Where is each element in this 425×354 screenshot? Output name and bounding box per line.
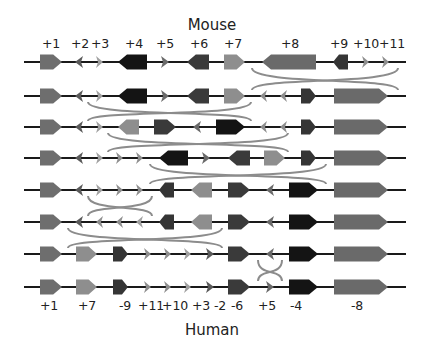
inversion-arc-7 [258,260,282,281]
gene-4-icon [118,89,147,104]
inversion-arc-3 [108,133,288,152]
gene-1-icon [40,55,62,70]
gene-4-icon [118,55,147,70]
chromosome-row-1 [24,55,406,70]
gene-4-icon [289,215,318,230]
gene-9-icon [113,280,128,295]
gene-1-icon [40,120,62,135]
mouse-title: Mouse [188,16,237,34]
human-gene-label: +1 [40,298,58,313]
mouse-gene-label: +2 [71,36,89,51]
mouse-gene-label: +5 [156,36,174,51]
gene-6-icon [154,120,176,135]
mouse-gene-label: +4 [125,36,143,51]
inversion-arc-2 [88,102,251,121]
gene-8-icon [334,215,388,230]
gene-7-icon [118,120,139,135]
chromosome-row-5 [24,183,406,198]
gene-7-icon [191,183,212,198]
chromosome-row-6 [24,215,406,230]
gene-6-icon [228,151,250,166]
inversion-arc-2 [88,102,251,121]
gene-9-icon [113,247,128,262]
chromosome-row-2 [24,89,406,104]
gene-6-icon [228,280,250,295]
gene-9-icon [301,89,316,104]
gene-4-icon [289,247,318,262]
gene-6-icon [228,183,250,198]
mouse-gene-label: +7 [224,36,242,51]
inversion-arc-3 [108,133,288,152]
gene-8-icon [334,89,388,104]
gene-8-icon [334,280,388,295]
gene-1-icon [40,215,62,230]
mouse-gene-label: +10 [353,36,379,51]
gene-8-icon [334,120,388,135]
gene-1-icon [40,183,62,198]
human-gene-label: -8 [351,298,363,313]
gene-1-icon [40,89,62,104]
inversion-arc-1 [252,68,398,90]
inversion-arc-1 [252,68,398,90]
gene-7-icon [76,280,97,295]
gene-1-icon [40,151,62,166]
human-title: Human [185,321,239,339]
inversion-arc-4 [150,164,326,184]
chromosome-row-3 [24,120,406,135]
gene-9-icon [159,183,174,198]
human-gene-label: -4 [290,298,302,313]
inversion-arc-6 [68,228,222,248]
gene-8-icon [334,183,388,198]
gene-8-icon [334,151,388,166]
gene-6-icon [187,89,209,104]
gene-6-icon [228,247,250,262]
gene-8-icon [334,247,388,262]
gene-4-icon [159,151,188,166]
chromosome-row-7 [24,247,406,262]
gene-7-icon [224,55,245,70]
human-gene-label: +10 [162,298,188,313]
gene-7-icon [191,215,212,230]
gene-1-icon [40,247,62,262]
human-gene-label: +5 [258,298,276,313]
inversion-arc-7 [258,260,282,281]
mouse-gene-label: +1 [42,36,60,51]
gene-8-icon [262,55,316,70]
human-gene-label: -2 [214,298,226,313]
gene-7-icon [76,247,97,262]
chromosome-row-8 [24,280,406,295]
gene-4-icon [216,120,245,135]
gene-9-icon [301,151,316,166]
inversion-arc-5 [88,196,152,216]
human-gene-label: -6 [231,298,243,313]
human-gene-label: +11 [138,298,164,313]
gene-4-icon [289,280,318,295]
inversion-arc-5 [88,196,152,216]
gene-7-icon [264,151,285,166]
gene-7-icon [224,89,245,104]
inversion-arc-6 [68,228,222,248]
human-gene-label: +7 [78,298,96,313]
human-gene-label: -9 [119,298,131,313]
chromosome-row-4 [24,151,406,166]
mouse-gene-label: +9 [330,36,348,51]
mouse-gene-label: +3 [91,36,109,51]
human-gene-label: +3 [192,298,210,313]
gene-4-icon [289,183,318,198]
gene-6-icon [228,215,250,230]
inversion-arc-4 [150,164,326,184]
gene-9-icon [333,55,348,70]
mouse-gene-label: +8 [281,36,299,51]
gene-1-icon [40,280,62,295]
gene-9-icon [301,120,316,135]
gene-9-icon [159,215,174,230]
gene-6-icon [187,55,209,70]
mouse-gene-label: +6 [190,36,208,51]
mouse-gene-label: +11 [379,36,405,51]
